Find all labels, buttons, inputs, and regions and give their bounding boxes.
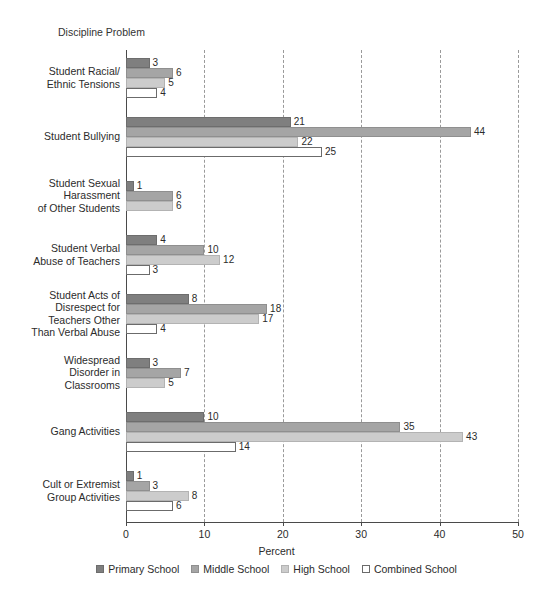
bar-row: 43 — [126, 432, 518, 442]
category-label-line: Disrespect for — [2, 301, 120, 314]
bar[interactable] — [126, 127, 471, 137]
x-tick-mark-40 — [440, 522, 441, 526]
category-label-line: Harassment — [2, 189, 120, 202]
x-tick-label-10: 10 — [199, 528, 211, 540]
bar[interactable] — [126, 294, 189, 304]
bar[interactable] — [126, 501, 173, 511]
x-axis-title: Percent — [0, 545, 553, 557]
plot-area: 3654214422251664101238181743751035431413… — [126, 50, 518, 522]
category-label-line: Student Sexual — [2, 177, 120, 190]
category-label-line: Student Bullying — [2, 130, 120, 143]
bar-row: 21 — [126, 117, 518, 127]
bar[interactable] — [126, 137, 298, 147]
category-label: Student VerbalAbuse of Teachers — [2, 242, 120, 267]
legend-item-high-school[interactable]: High School — [281, 563, 350, 575]
bar-row: 6 — [126, 191, 518, 201]
x-tick-mark-10 — [204, 522, 205, 526]
bar[interactable] — [126, 201, 173, 211]
bar-row: 7 — [126, 368, 518, 378]
legend-swatch-high-icon — [281, 565, 289, 573]
bar[interactable] — [126, 304, 267, 314]
bar[interactable] — [126, 481, 150, 491]
y-axis-title: Discipline Problem — [58, 26, 145, 38]
x-axis-line — [126, 522, 519, 523]
bar[interactable] — [126, 324, 157, 334]
bar-value-label: 4 — [160, 322, 166, 335]
bar-row: 8 — [126, 491, 518, 501]
bar-row: 44 — [126, 127, 518, 137]
category-label-line: Student Racial/ — [2, 65, 120, 78]
x-tick-mark-30 — [361, 522, 362, 526]
bar-value-label: 6 — [176, 499, 182, 512]
bar-row: 5 — [126, 78, 518, 88]
bar[interactable] — [126, 58, 150, 68]
bar[interactable] — [126, 78, 165, 88]
bar-row: 1 — [126, 181, 518, 191]
x-tick-label-40: 40 — [434, 528, 446, 540]
bar[interactable] — [126, 422, 400, 432]
bar-row: 3 — [126, 265, 518, 275]
bar[interactable] — [126, 68, 173, 78]
bar[interactable] — [126, 358, 150, 368]
category-label: Student SexualHarassmentof Other Student… — [2, 177, 120, 215]
legend-item-combined-school[interactable]: Combined School — [362, 563, 457, 575]
legend-item-middle-school[interactable]: Middle School — [191, 563, 269, 575]
bar[interactable] — [126, 432, 463, 442]
category-label-line: Than Verbal Abuse — [2, 326, 120, 339]
category-label: Cult or ExtremistGroup Activities — [2, 478, 120, 503]
bar-value-label: 6 — [176, 199, 182, 212]
category-label: Student Racial/Ethnic Tensions — [2, 65, 120, 90]
bar-group: 21442225 — [126, 117, 518, 157]
bar-row: 10 — [126, 245, 518, 255]
bar[interactable] — [126, 88, 157, 98]
bar-value-label: 14 — [239, 440, 250, 453]
bar-row: 18 — [126, 304, 518, 314]
bar[interactable] — [126, 471, 134, 481]
chart-legend: Primary SchoolMiddle SchoolHigh SchoolCo… — [0, 563, 553, 575]
bar[interactable] — [126, 314, 259, 324]
bar[interactable] — [126, 191, 173, 201]
bar-row: 1 — [126, 471, 518, 481]
bar[interactable] — [126, 147, 322, 157]
bar[interactable] — [126, 412, 204, 422]
bar[interactable] — [126, 235, 157, 245]
x-tick-mark-0 — [126, 522, 127, 526]
bar[interactable] — [126, 378, 165, 388]
bar-group: 410123 — [126, 235, 518, 275]
x-tick-label-50: 50 — [512, 528, 524, 540]
x-tick-mark-20 — [283, 522, 284, 526]
category-labels: Student Racial/Ethnic TensionsStudent Bu… — [0, 50, 120, 522]
bar-row: 4 — [126, 235, 518, 245]
bar-row: 10 — [126, 412, 518, 422]
bar[interactable] — [126, 265, 150, 275]
bar[interactable] — [126, 245, 204, 255]
category-label: Gang Activities — [2, 425, 120, 438]
bar-row: 3 — [126, 481, 518, 491]
category-label-line: Widespread — [2, 354, 120, 367]
bar-row: 25 — [126, 147, 518, 157]
bar-row: 22 — [126, 137, 518, 147]
category-label-line: of Other Students — [2, 202, 120, 215]
bar-group: 166 — [126, 181, 518, 211]
bar-row: 12 — [126, 255, 518, 265]
bar[interactable] — [126, 181, 134, 191]
bar-row: 6 — [126, 68, 518, 78]
legend-swatch-middle-icon — [191, 565, 199, 573]
category-label-line: Gang Activities — [2, 425, 120, 438]
bar[interactable] — [126, 117, 291, 127]
legend-item-primary-school[interactable]: Primary School — [96, 563, 179, 575]
legend-label: High School — [293, 563, 350, 575]
bar-value-label: 5 — [168, 376, 174, 389]
bar-group: 818174 — [126, 294, 518, 334]
bar[interactable] — [126, 442, 236, 452]
category-label-line: Abuse of Teachers — [2, 255, 120, 268]
legend-label: Middle School — [203, 563, 269, 575]
bar-row: 4 — [126, 88, 518, 98]
bar[interactable] — [126, 255, 220, 265]
category-label-line: Disorder in — [2, 366, 120, 379]
bar-row: 17 — [126, 314, 518, 324]
gridline-50 — [518, 50, 519, 522]
category-label-line: Student Verbal — [2, 242, 120, 255]
category-label-line: Group Activities — [2, 491, 120, 504]
legend-swatch-combined-icon — [362, 565, 370, 573]
